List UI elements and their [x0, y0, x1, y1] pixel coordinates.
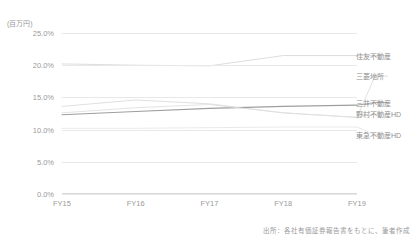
series-lines	[62, 33, 357, 194]
x-axis-tick: FY16	[127, 199, 145, 208]
y-axis-tick: 20.0%	[33, 61, 54, 70]
y-axis-tick: 10.0%	[33, 125, 54, 134]
series-label-0: 住友不動産	[356, 51, 391, 61]
series-label-2: 三井不動産	[356, 98, 391, 108]
y-axis-unit-label: (百万円)	[7, 18, 33, 28]
plot-area	[62, 33, 357, 194]
x-axis-tick: FY15	[53, 199, 71, 208]
y-axis-tick: 25.0%	[33, 29, 54, 38]
source-note: 出所：各社有価証券報告書をもとに、筆者作成	[263, 225, 410, 235]
x-axis-tick: FY17	[201, 199, 219, 208]
gridline	[62, 97, 357, 98]
y-axis-tick: 0.0%	[37, 190, 54, 199]
series-label-4: 東急不動産HD	[356, 130, 401, 140]
y-axis-tick-labels: 0.0%5.0%10.0%15.0%20.0%25.0%	[0, 33, 58, 194]
line-series	[62, 127, 357, 128]
gridline	[62, 33, 357, 34]
series-label-3: 野村不動産HD	[356, 109, 401, 119]
gridline	[62, 130, 357, 131]
gridline	[62, 194, 357, 195]
x-axis-tick: FY18	[274, 199, 292, 208]
gridline	[62, 65, 357, 66]
x-axis-tick: FY19	[348, 199, 366, 208]
gridline	[62, 162, 357, 163]
series-label-1: 三菱地所	[356, 71, 384, 81]
chart-container: (百万円) 0.0%5.0%10.0%15.0%20.0%25.0% 出所：各社…	[0, 0, 418, 241]
x-axis-line	[62, 193, 357, 194]
y-axis-tick: 5.0%	[37, 157, 54, 166]
y-axis-tick: 15.0%	[33, 93, 54, 102]
